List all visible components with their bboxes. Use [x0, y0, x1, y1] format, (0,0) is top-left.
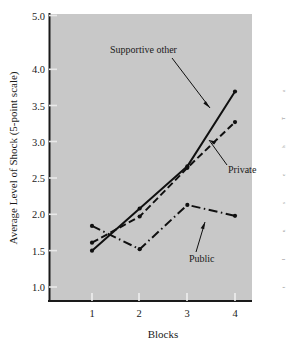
annotation-label-supportive-other: Supportive other: [110, 44, 178, 55]
y-tick-label: 2.0: [32, 209, 45, 220]
edge-fragment: a: [281, 89, 286, 92]
y-tick-label: 1.0: [32, 282, 45, 293]
edge-fragment: t: [281, 286, 286, 288]
x-tick-label: 1: [89, 308, 94, 319]
data-point: [90, 241, 94, 245]
y-tick-label: 3.5: [32, 101, 45, 112]
edge-fragment: e: [281, 173, 286, 176]
x-axis-tick-labels: 1 2 3 4: [89, 308, 238, 319]
x-tick-label: 3: [184, 308, 189, 319]
data-point: [138, 206, 142, 210]
figure-container: 5.0 4.0 3.5 2.5 3.0 2.0 1.5 1.0 1 2 3 4 …: [0, 0, 299, 347]
y-tick-label: 2.5: [32, 173, 45, 184]
x-tick-label: 4: [232, 308, 238, 319]
data-point: [233, 120, 237, 124]
y-tick-label: 4.0: [32, 64, 45, 75]
y-tick-label: 5.0: [32, 11, 45, 22]
edge-fragment: s: [281, 202, 286, 204]
y-axis-title: Average Level of Shock (5-point scale): [7, 71, 20, 244]
y-axis-tick-labels: 5.0 4.0 3.5 2.5 3.0 2.0 1.5 1.0: [32, 11, 45, 294]
x-tick-label: 2: [136, 308, 141, 319]
data-point: [233, 214, 237, 218]
y-tick-label: 1.5: [32, 246, 45, 257]
annotation-label-private: Private: [228, 164, 257, 175]
edge-fragment: u: [281, 229, 286, 232]
line-chart: 5.0 4.0 3.5 2.5 3.0 2.0 1.5 1.0 1 2 3 4 …: [0, 0, 299, 347]
data-point: [138, 214, 142, 218]
data-point: [233, 89, 237, 93]
data-point: [90, 224, 94, 228]
y-tick-label: 3.0: [32, 137, 45, 148]
edge-fragment: h: [281, 145, 286, 148]
data-point: [90, 249, 94, 253]
annotation-label-public: Public: [189, 253, 215, 264]
x-axis-title: Blocks: [148, 328, 179, 340]
edge-fragment: T: [281, 117, 286, 120]
data-point: [185, 166, 189, 170]
page-edge-text-fragments: a T h e s u l t: [281, 89, 286, 288]
edge-fragment: l: [281, 258, 286, 260]
data-point: [185, 203, 189, 207]
data-point: [138, 247, 142, 251]
